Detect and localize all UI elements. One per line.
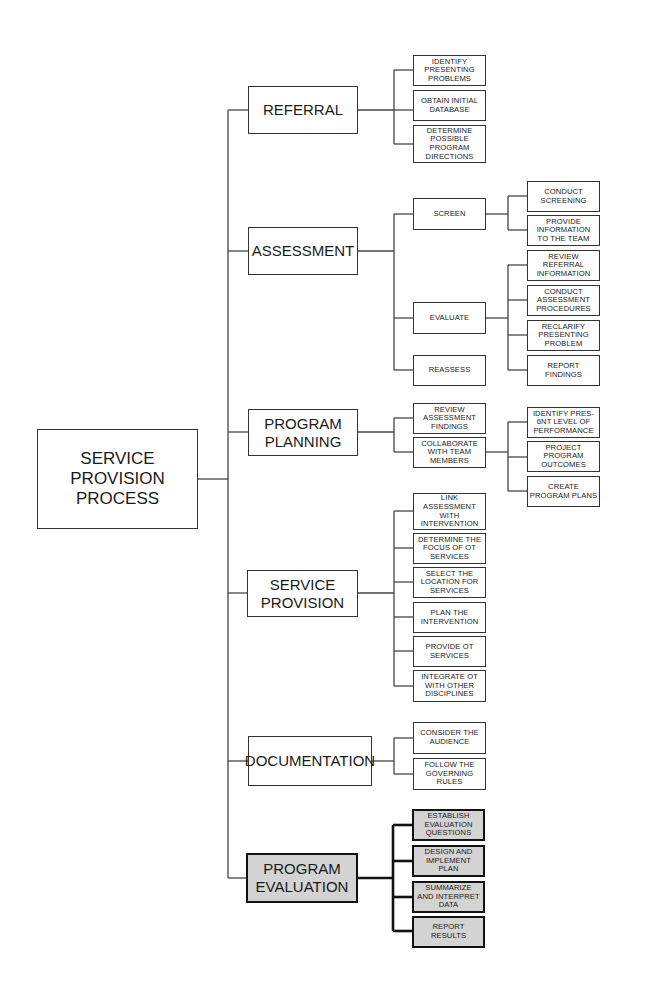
task-report-findings: REPORT FINDINGS (527, 355, 600, 386)
task-provide-information: PROVIDE INFORMATION TO THE TEAM (527, 215, 600, 246)
task-label: SUMMARIZE AND INTERPRET DATA (417, 884, 479, 910)
task-review-referral-information: REVIEW REFERRAL INFORMATION (527, 250, 600, 281)
task-label: REVIEW REFERRAL INFORMATION (537, 253, 591, 279)
task-consider-audience: CONSIDER THE AUDIENCE (413, 722, 486, 754)
task-label: SELECT THE LOCATION FOR SERVICES (421, 570, 479, 596)
task-label: IDENTIFY PRES- 6NT LEVEL OF PERFORMANCE (533, 410, 594, 436)
phase-referral: REFERRAL (248, 86, 358, 134)
subphase-label: SCREEN (433, 210, 465, 219)
phase-label: SERVICE PROVISION (261, 576, 344, 612)
task-project-program-outcomes: PROJECT PROGRAM OUTCOMES (527, 441, 600, 472)
task-label: REVIEW ASSESSMENT FINDINGS (423, 406, 476, 432)
task-summarize-interpret-data: SUMMARIZE AND INTERPRET DATA (412, 881, 485, 913)
task-label: REPORT RESULTS (431, 923, 466, 940)
task-label: LINK ASSESSMENT WITH INTERVENTION (421, 494, 479, 528)
subphase-reassess: REASSESS (413, 355, 486, 386)
subphase-screen: SCREEN (413, 198, 486, 230)
task-obtain-initial-database: OBTAIN INITIAL DATABASE (413, 90, 486, 121)
task-label: CONDUCT ASSESSMENT PROCEDURES (536, 288, 591, 314)
phase-label: PROGRAM PLANNING (264, 415, 342, 451)
phase-label: PROGRAM EVALUATION (256, 860, 349, 896)
task-conduct-screening: CONDUCT SCREENING (527, 181, 600, 212)
task-select-location: SELECT THE LOCATION FOR SERVICES (413, 567, 486, 598)
task-label: REPORT FINDINGS (545, 362, 582, 379)
phase-label: REFERRAL (263, 101, 343, 119)
subphase-label: COLLABORATE WITH TEAM MEMBERS (421, 440, 478, 466)
task-identify-present-level: IDENTIFY PRES- 6NT LEVEL OF PERFORMANCE (527, 407, 600, 438)
task-integrate-ot: INTEGRATE OT WITH OTHER DISCIPLINES (413, 670, 486, 702)
task-label: PROJECT PROGRAM OUTCOMES (541, 444, 586, 470)
task-label: DETERMINE POSSIBLE PROGRAM DIRECTIONS (426, 127, 474, 161)
task-label: ESTABLISH EVALUATION QUESTIONS (425, 812, 473, 838)
task-label: RECLARIFY PRESENTING PROBLEM (538, 323, 588, 349)
task-label: IDENTIFY PRESENTING PROBLEMS (424, 58, 474, 84)
task-label: CONSIDER THE AUDIENCE (420, 729, 478, 746)
phase-assessment: ASSESSMENT (248, 227, 358, 275)
task-determine-focus: DETERMINE THE FOCUS OF OT SERVICES (413, 533, 486, 564)
task-determine-program-directions: DETERMINE POSSIBLE PROGRAM DIRECTIONS (413, 125, 486, 163)
task-conduct-assessment-procedures: CONDUCT ASSESSMENT PROCEDURES (527, 285, 600, 316)
task-label: PLAN THE INTERVENTION (421, 609, 479, 626)
task-label: PROVIDE OT SERVICES (426, 643, 474, 660)
phase-service-provision: SERVICE PROVISION (247, 570, 358, 617)
phase-label: ASSESSMENT (252, 242, 355, 260)
root-node-service-provision-process: SERVICE PROVISION PROCESS (37, 429, 198, 529)
task-label: CONDUCT SCREENING (540, 188, 586, 205)
task-report-results: REPORT RESULTS (412, 916, 485, 948)
task-reclarify-presenting-problem: RECLARIFY PRESENTING PROBLEM (527, 320, 600, 351)
task-label: OBTAIN INITIAL DATABASE (421, 97, 478, 114)
task-label: PROVIDE INFORMATION TO THE TEAM (537, 218, 591, 244)
task-label: FOLLOW THE GOVERNING RULES (424, 761, 474, 787)
phase-documentation: DOCUMENTATION (248, 736, 372, 786)
phase-program-planning: PROGRAM PLANNING (248, 409, 358, 456)
subphase-label: EVALUATE (430, 314, 469, 323)
task-label: DETERMINE THE FOCUS OF OT SERVICES (418, 536, 481, 562)
task-label: CREATE PROGRAM PLANS (530, 483, 598, 500)
task-design-implement-plan: DESIGN AND IMPLEMENT PLAN (412, 845, 485, 877)
task-provide-ot-services: PROVIDE OT SERVICES (413, 636, 486, 667)
root-node-label: SERVICE PROVISION PROCESS (70, 449, 164, 509)
phase-program-evaluation: PROGRAM EVALUATION (246, 853, 358, 903)
subphase-collaborate-with-team: COLLABORATE WITH TEAM MEMBERS (413, 437, 486, 468)
task-label: DESIGN AND IMPLEMENT PLAN (425, 848, 473, 874)
task-review-assessment-findings: REVIEW ASSESSMENT FINDINGS (413, 403, 486, 434)
task-link-assessment: LINK ASSESSMENT WITH INTERVENTION (413, 493, 486, 530)
task-identify-presenting-problems: IDENTIFY PRESENTING PROBLEMS (413, 55, 486, 86)
task-establish-evaluation-questions: ESTABLISH EVALUATION QUESTIONS (412, 809, 485, 841)
task-follow-governing-rules: FOLLOW THE GOVERNING RULES (413, 758, 486, 790)
phase-label: DOCUMENTATION (245, 752, 375, 770)
task-plan-intervention: PLAN THE INTERVENTION (413, 602, 486, 633)
task-label: INTEGRATE OT WITH OTHER DISCIPLINES (421, 673, 478, 699)
subphase-label: REASSESS (429, 366, 471, 375)
task-create-program-plans: CREATE PROGRAM PLANS (527, 476, 600, 507)
subphase-evaluate: EVALUATE (413, 302, 486, 334)
